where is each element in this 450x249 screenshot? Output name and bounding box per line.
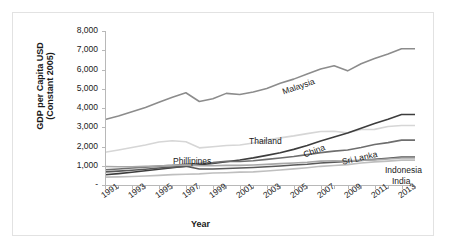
y-tick-label: 2,000 — [52, 142, 98, 150]
y-axis-line — [105, 31, 106, 185]
y-tick-label: 3,000 — [52, 122, 98, 130]
series-lines — [105, 31, 415, 185]
y-tick-label: 8,000 — [52, 26, 98, 34]
y-tick-mark — [102, 166, 105, 167]
x-tick-label: 1991 — [99, 181, 120, 200]
y-tick-label: - — [52, 180, 98, 188]
y-tick-mark — [102, 31, 105, 32]
y-tick-mark — [102, 89, 105, 90]
y-tick-mark — [102, 147, 105, 148]
series-label-indonesia: Indonesia — [385, 165, 422, 175]
y-tick-label: 6,000 — [52, 65, 98, 73]
y-tick-mark — [102, 70, 105, 71]
y-axis-title-line1: GDP per Capita USD — [35, 11, 45, 161]
y-tick-label: 4,000 — [52, 103, 98, 111]
plot-area: 1991199319951997199920012003200520072009… — [105, 31, 415, 185]
series-label-thailand: Thailand — [249, 136, 282, 146]
y-tick-mark — [102, 127, 105, 128]
series-line-malaysia — [105, 49, 415, 120]
y-tick-label: 5,000 — [52, 84, 98, 92]
y-tick-mark — [102, 108, 105, 109]
series-label-india: India — [392, 176, 410, 186]
x-axis-line — [105, 185, 415, 186]
y-tick-mark — [102, 50, 105, 51]
y-tick-label: 1,000 — [52, 161, 98, 169]
x-axis-title: Year — [191, 219, 210, 229]
chart-container: GDP per Capita USD (Constant 2005) 19911… — [12, 12, 434, 236]
series-label-phillipines: Phillipines — [173, 156, 211, 166]
y-tick-label: 7,000 — [52, 45, 98, 53]
